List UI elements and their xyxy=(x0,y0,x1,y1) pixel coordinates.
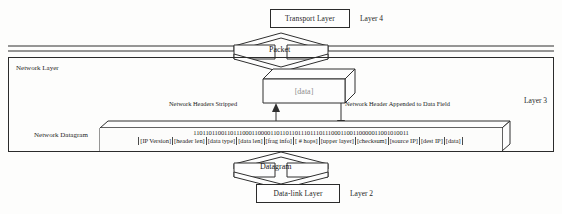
datagram-bit-string: 1101101100110111000110000110110110111011… xyxy=(100,128,502,137)
datagram-field: [source IP] xyxy=(388,137,420,145)
data-link-layer-box: Data-link Layer xyxy=(256,184,340,203)
datagram-field: [data len] xyxy=(236,137,264,145)
datagram-field: [data type] xyxy=(206,137,238,145)
datagram-field: [dest IP] xyxy=(419,137,445,145)
datagram-field: [IP Version] xyxy=(138,137,173,145)
datagram-field: [ # hops] xyxy=(293,137,320,145)
network-layer-label: Network Layer xyxy=(16,64,59,72)
datagram-field: [data] xyxy=(444,137,463,145)
layer-4-tag: Layer 4 xyxy=(360,14,383,23)
layer-3-tag: Layer 3 xyxy=(524,96,547,105)
annotation-header-appended: Network Header Appended to Data Field xyxy=(345,100,450,107)
datagram-band-label: Datagram xyxy=(260,162,292,171)
datagram-field: [checksum] xyxy=(355,137,389,145)
network-datagram-label: Network Datagram xyxy=(34,131,88,139)
transport-layer-box: Transport Layer xyxy=(270,9,350,28)
data-unit-label: [data] xyxy=(263,79,345,103)
data-link-layer-label: Data-link Layer xyxy=(273,189,322,198)
layer-2-tag: Layer 2 xyxy=(350,189,373,198)
packet-band-label: Packet xyxy=(269,45,290,54)
transport-layer-label: Transport Layer xyxy=(285,14,335,23)
diagram-canvas: Transport Layer Layer 4 Packet Network L… xyxy=(0,0,562,214)
datagram-field: [upper layer] xyxy=(319,137,356,145)
annotation-headers-stripped: Network Headers Stripped xyxy=(169,100,237,107)
datagram-field: [header len] xyxy=(172,137,207,145)
datagram-front-face: 1101101100110111000110000110110110111011… xyxy=(100,128,502,151)
datagram-field: [frag info] xyxy=(264,137,294,145)
datagram-field-list: [IP Version] [header len] [data type] [d… xyxy=(100,137,502,145)
